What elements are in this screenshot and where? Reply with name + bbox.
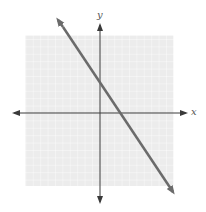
grid — [25, 36, 173, 186]
x-axis-label: x — [191, 106, 197, 117]
coordinate-plane — [0, 0, 206, 212]
graphed-line — [58, 20, 63, 27]
y-axis-label: y — [97, 9, 103, 20]
